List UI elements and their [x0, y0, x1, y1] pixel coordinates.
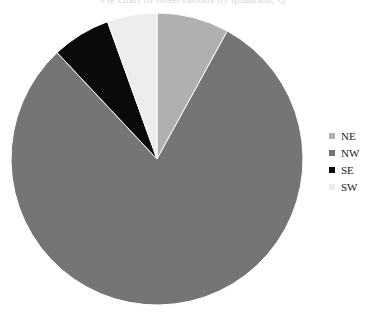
legend-item-se[interactable]: SE [329, 162, 384, 178]
legend-label-ne: NE [341, 131, 356, 142]
legend-swatch-se-icon [329, 167, 335, 173]
legend-swatch-nw-icon [329, 150, 335, 156]
legend-item-ne[interactable]: NE [329, 128, 384, 144]
pie-chart-figure: Pie chart of observations by quadrant, Q… [0, 0, 386, 321]
legend-item-sw[interactable]: SW [329, 179, 384, 195]
legend-swatch-sw-icon [329, 184, 335, 190]
legend-swatch-ne-icon [329, 133, 335, 139]
legend-item-nw[interactable]: NW [329, 145, 384, 161]
chart-legend: NE NW SE SW [329, 128, 384, 196]
legend-label-nw: NW [341, 148, 359, 159]
legend-label-se: SE [341, 165, 354, 176]
pie-slice-group [11, 13, 303, 305]
legend-label-sw: SW [341, 182, 358, 193]
